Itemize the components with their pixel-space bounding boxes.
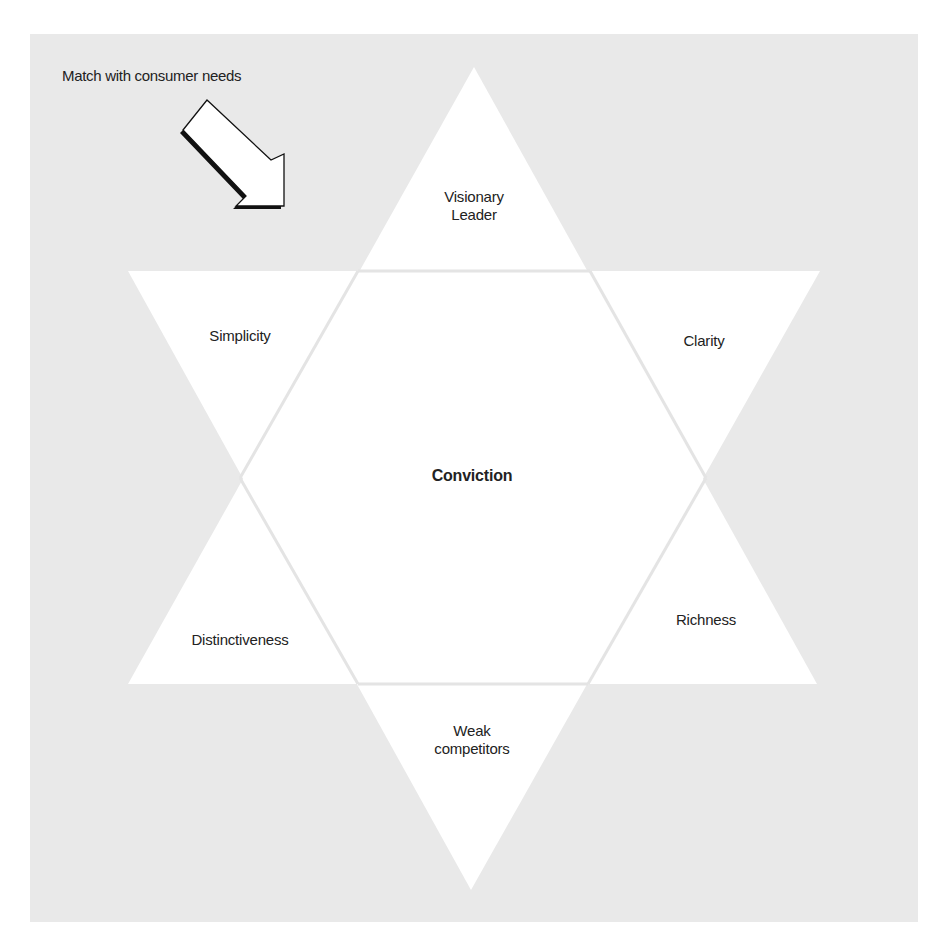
label-bottom: Weak competitors <box>434 722 509 758</box>
label-upper-right: Clarity <box>683 332 724 350</box>
label-bottom-line-2: competitors <box>434 740 509 758</box>
label-top: Visionary Leader <box>444 188 504 224</box>
label-lower-left: Distinctiveness <box>191 631 288 649</box>
label-top-line-1: Visionary <box>444 188 504 206</box>
label-top-line-2: Leader <box>444 206 504 224</box>
arrow-down-right-icon <box>180 100 284 209</box>
label-bottom-line-1: Weak <box>434 722 509 740</box>
label-lower-right: Richness <box>676 611 736 629</box>
label-center: Conviction <box>432 467 513 485</box>
caption-match-consumer-needs: Match with consumer needs <box>62 67 241 84</box>
label-upper-left: Simplicity <box>209 327 270 345</box>
